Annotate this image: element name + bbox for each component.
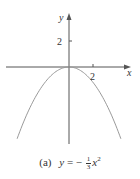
caption-exponent: 2 (97, 155, 101, 163)
y-axis-label: y (58, 12, 64, 23)
caption-equals: = − (67, 156, 82, 168)
parabola-graph: x y 2 2 (0, 0, 140, 179)
x-axis-label: x (126, 67, 132, 78)
caption-lhs: y (59, 156, 64, 168)
fraction-denominator: 3 (86, 164, 92, 171)
y-tick-label: 2 (57, 36, 62, 47)
chart-caption: (a) y = − 1 3 x2 (0, 155, 140, 171)
x-tick-label: 2 (90, 71, 95, 82)
y-axis-arrow-icon (67, 13, 72, 20)
caption-label: (a) (39, 156, 51, 168)
caption-fraction: 1 3 (86, 156, 92, 171)
